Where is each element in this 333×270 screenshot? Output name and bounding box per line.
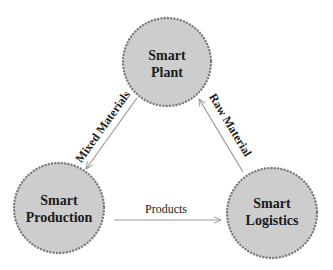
edge-raw-material: Raw Material (199, 91, 255, 172)
edge-products: Products (114, 202, 221, 220)
node-smart-logistics: Smart Logistics (227, 168, 317, 258)
node-smart-plant: Smart Plant (123, 18, 211, 106)
edge-label-raw-material: Raw Material (206, 91, 255, 160)
edge-mixed-materials: Mixed Materials (72, 88, 137, 169)
node-label-logistics-line1: Smart (253, 196, 291, 211)
node-label-plant-line2: Plant (151, 65, 183, 80)
node-circle-production (14, 163, 104, 253)
edge-label-mixed-materials: Mixed Materials (72, 88, 133, 166)
node-label-plant-line1: Smart (148, 48, 186, 63)
node-label-production-line1: Smart (40, 193, 78, 208)
edge-label-products: Products (145, 202, 187, 216)
node-label-logistics-line2: Logistics (246, 213, 299, 228)
node-smart-production: Smart Production (14, 163, 104, 253)
node-label-production-line2: Production (26, 210, 93, 225)
flow-diagram: Mixed Materials Products Raw Material Sm… (0, 0, 333, 270)
